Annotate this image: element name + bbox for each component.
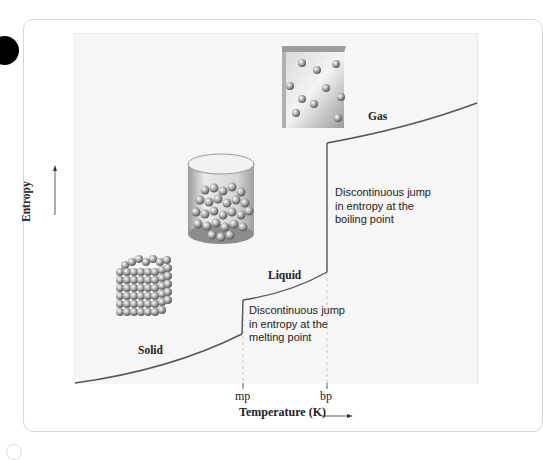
solid-curve — [75, 334, 242, 383]
gas-box-illustration — [282, 46, 346, 128]
x-tick-bp: bp — [320, 389, 332, 404]
boiling-point-annotation: Discontinuous jump in entropy at the boi… — [335, 186, 465, 227]
x-tick-mp: mp — [235, 389, 250, 404]
phase-label-solid: Solid — [138, 344, 163, 356]
melting-jump — [242, 300, 243, 334]
y-axis-label: Entropy — [20, 181, 32, 222]
partial-next-bullet — [6, 444, 22, 460]
liquid-beaker-illustration — [188, 154, 254, 244]
melting-point-annotation: Discontinuous jump in entropy at the mel… — [249, 304, 379, 345]
x-axis-label: Temperature (K) — [239, 405, 326, 420]
phase-label-liquid: Liquid — [268, 269, 301, 281]
solid-lattice-illustration — [116, 255, 172, 316]
gas-curve — [327, 103, 477, 143]
phase-label-gas: Gas — [368, 110, 387, 122]
